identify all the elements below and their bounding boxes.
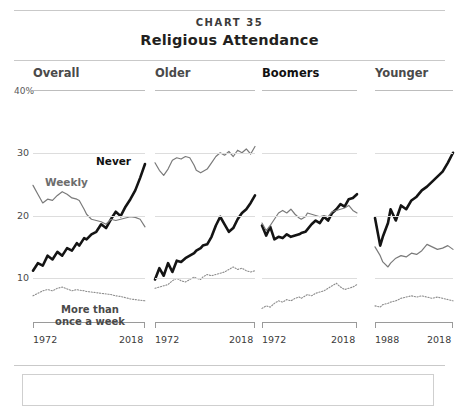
panel-underline	[262, 90, 357, 91]
series-annotation-more-than-once-a-week: More thanonce a week	[38, 304, 142, 328]
header-divider-rule	[14, 60, 445, 61]
panel-underline	[375, 90, 453, 91]
footer-note-box	[22, 374, 434, 406]
x-axis-bracket	[262, 322, 357, 328]
gridline-30	[33, 153, 145, 154]
gridline-30	[155, 153, 255, 154]
y-tick-label-20: 20	[5, 210, 29, 221]
chart-kicker: CHART 35	[0, 17, 459, 28]
panel-title-boomers: Boomers	[262, 66, 320, 80]
gridline-30	[375, 153, 453, 154]
x-label-end: 2018	[229, 334, 253, 345]
gridline-10	[33, 278, 145, 279]
x-axis-bracket	[155, 322, 255, 328]
panel-underline	[155, 90, 255, 91]
series-annotation-more-line1: More than	[38, 304, 142, 316]
x-label-start: 1972	[262, 334, 286, 345]
gridline-20	[375, 216, 453, 217]
x-axis-bracket	[375, 322, 453, 328]
panel-title-overall: Overall	[33, 66, 79, 80]
x-label-start: 1972	[155, 334, 179, 345]
gridline-10	[375, 278, 453, 279]
gridline-10	[155, 278, 255, 279]
series-annotation-weekly: Weekly	[45, 176, 88, 188]
gridline-30	[262, 153, 357, 154]
panel-title-younger: Younger	[375, 66, 428, 80]
x-label-end: 2018	[331, 334, 355, 345]
series-annotation-never: Never	[96, 155, 131, 167]
x-label-end: 2018	[119, 334, 143, 345]
y-tick-label-10: 10	[5, 272, 29, 283]
panel-title-older: Older	[155, 66, 190, 80]
top-divider-rule	[14, 10, 445, 11]
gridline-20	[262, 216, 357, 217]
x-label-end: 2018	[427, 334, 451, 345]
gridline-20	[33, 216, 145, 217]
page-title: Religious Attendance	[0, 32, 459, 48]
gridline-20	[155, 216, 255, 217]
x-label-start: 1972	[33, 334, 57, 345]
gridline-10	[262, 278, 357, 279]
panel-underline	[33, 90, 145, 91]
x-label-start: 1988	[375, 334, 399, 345]
y-tick-label-30: 30	[5, 147, 29, 158]
bottom-divider-rule	[14, 365, 445, 366]
series-annotation-more-line2: once a week	[38, 316, 142, 328]
y-axis-unit-label: 40%	[8, 86, 34, 96]
